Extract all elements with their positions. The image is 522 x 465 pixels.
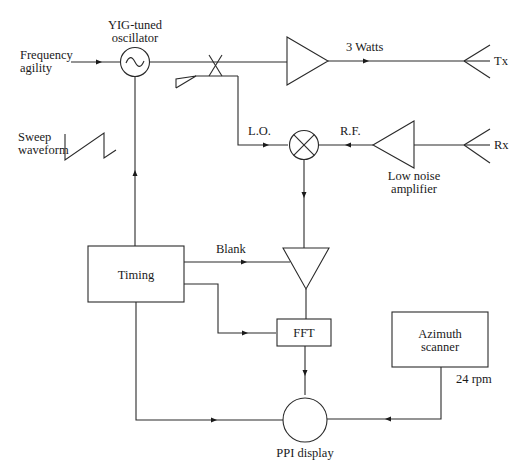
timing-to-fft-line <box>184 284 276 333</box>
yig-oscillator <box>121 48 150 77</box>
rx-label: Rx <box>494 138 509 152</box>
sweep-label: Sweep <box>18 130 51 144</box>
timing-label: Timing <box>118 268 155 282</box>
lo-label: L.O. <box>248 124 271 138</box>
arrow-icon <box>211 418 217 423</box>
arrow-icon <box>96 60 102 65</box>
arrow-icon <box>363 59 369 64</box>
rpm-label: 24 rpm <box>456 372 492 386</box>
rx-antenna <box>464 129 490 163</box>
lo-arrow-icon <box>263 143 269 148</box>
arrow-icon <box>302 192 307 198</box>
tx-label: Tx <box>494 54 509 68</box>
power-amplifier <box>287 37 328 85</box>
azimuth-label-2: scanner <box>421 340 460 354</box>
yig-label-2: oscillator <box>112 31 159 45</box>
blank-label: Blank <box>216 242 247 256</box>
arrow-icon <box>133 170 138 176</box>
mixer <box>290 131 319 160</box>
timing-to-ppi-line <box>136 302 283 420</box>
frequency-agility-label: Frequency <box>20 48 74 62</box>
if-amplifier <box>283 248 329 289</box>
lna-label: Low noise <box>388 169 441 183</box>
arrow-icon <box>345 143 351 148</box>
sawtooth-waveform-icon <box>65 133 116 160</box>
directional-coupler <box>176 55 238 88</box>
arrow-icon <box>242 331 248 336</box>
rf-label: R.F. <box>340 124 361 138</box>
frequency-agility-label-2: agility <box>20 61 53 75</box>
tx-antenna <box>464 45 490 78</box>
radar-block-diagram: Frequency agility YIG-tuned oscillator L… <box>0 0 522 465</box>
lna-label-2: amplifier <box>391 182 438 196</box>
yig-label: YIG-tuned <box>108 18 163 32</box>
sweep-label-2: waveform <box>18 143 69 157</box>
fft-label: FFT <box>293 326 315 340</box>
power-label: 3 Watts <box>346 40 383 54</box>
ppi-label: PPI display <box>276 446 334 460</box>
azimuth-to-ppi-line <box>327 367 441 419</box>
arrow-icon <box>385 417 391 422</box>
arrow-icon <box>303 370 308 376</box>
ppi-display <box>283 398 327 442</box>
azimuth-label: Azimuth <box>418 327 462 341</box>
arrow-icon <box>241 260 247 265</box>
low-noise-amplifier <box>373 121 414 168</box>
